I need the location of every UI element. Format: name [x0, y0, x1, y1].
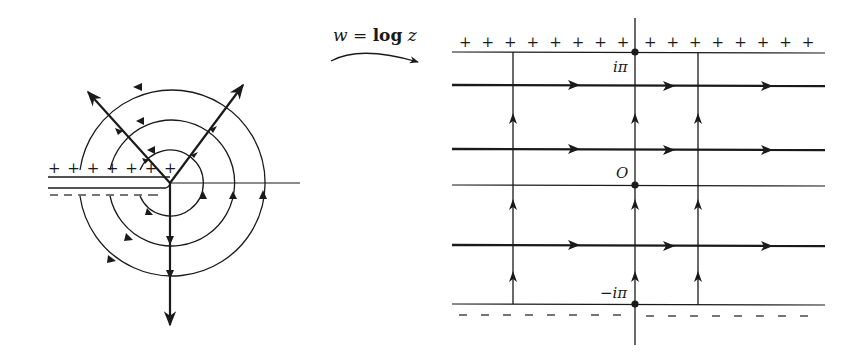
plus-signs-left: + + + + + + + +	[459, 33, 632, 51]
mapping-label: w = log z	[331, 25, 418, 62]
plus-signs-right: + + + + + + + +	[644, 33, 817, 51]
svg-text:w = log z: w = log z	[333, 25, 418, 45]
w-plane-vertical-arrowheads	[509, 113, 702, 282]
log-map-diagram: + + + + + + + w = log z	[0, 0, 867, 357]
label-minus-i-pi: −iπ	[600, 284, 628, 302]
label-i-pi: iπ	[613, 58, 629, 76]
radial-rays	[88, 85, 243, 325]
z-plane	[48, 85, 300, 325]
w-plane-labels: iπ O −iπ	[600, 58, 629, 302]
w-plane-plus-signs: + + + + + + + + + + + + + + + +	[459, 33, 817, 51]
upper-right-ray	[170, 85, 243, 183]
label-z: z	[407, 25, 418, 45]
ray-arrowheads	[115, 126, 217, 279]
w-plane	[452, 18, 825, 345]
branch-cut-slit	[48, 177, 170, 188]
label-log: log	[373, 25, 403, 45]
mapping-arrow	[331, 53, 418, 62]
label-w: w	[333, 25, 348, 45]
w-plane-horizontal-arrowheads	[568, 80, 773, 251]
label-origin: O	[616, 164, 628, 182]
label-equals: =	[348, 25, 373, 45]
w-plane-minus-signs	[459, 315, 808, 316]
point-i-pi	[631, 48, 638, 55]
point-origin	[631, 181, 638, 188]
point-minus-i-pi	[631, 300, 638, 307]
upper-cut-plus-signs: + + + + + + +	[48, 159, 178, 177]
